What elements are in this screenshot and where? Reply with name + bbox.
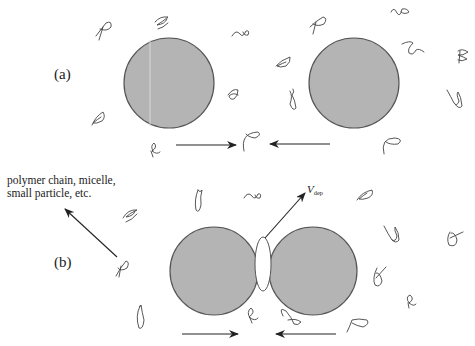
annotation-line-2: small particle, etc. — [7, 187, 116, 200]
colloid-particle-a-right — [309, 38, 399, 128]
polymer-chain-icon — [310, 17, 326, 34]
annotation-text: polymer chain, micelle, small particle, … — [7, 174, 116, 200]
polymer-chain-icon — [402, 42, 424, 54]
polymer-chain-icon — [248, 308, 258, 323]
polymer-chain-icon — [391, 9, 409, 15]
polymer-chain-icon — [155, 17, 168, 29]
velocity-symbol: V — [307, 183, 314, 195]
polymer-chain-icon — [96, 22, 111, 40]
polymer-chain-icon — [374, 267, 386, 286]
colloid-particle-b-left — [170, 227, 258, 315]
polymer-chain-icon — [407, 295, 416, 308]
panel-label-b: (b) — [54, 254, 72, 271]
polymer-chain-icon — [347, 319, 368, 332]
polymer-chain-icon — [116, 261, 128, 277]
depletion-zone-ellipse — [255, 237, 271, 291]
polymer-chain-icon — [137, 305, 144, 328]
velocity-label: Vdep — [307, 183, 323, 196]
polymer-chain-icon — [458, 50, 468, 63]
polymer-chain-icon — [244, 194, 261, 198]
polymer-chain-icon — [276, 57, 290, 67]
polymer-chain-icon — [123, 210, 137, 222]
polymer-chain-icon — [448, 232, 463, 246]
polymer-chain-icon — [447, 90, 462, 108]
polymer-chain-icon — [228, 90, 238, 100]
polymer-chain-icon — [151, 143, 160, 157]
panel-b-particles — [170, 227, 357, 315]
colloid-particle-a-left — [124, 38, 214, 128]
velocity-subscript: dep — [314, 189, 323, 196]
polymer-chain-icon — [243, 132, 259, 151]
polymer-chain-icon — [195, 190, 202, 211]
panel-a-particles — [124, 38, 399, 128]
polymer-chain-icon — [290, 89, 296, 109]
polymer-chain-icon — [384, 226, 399, 242]
polymer-chain-icon — [232, 31, 249, 36]
depletion-diagram — [0, 0, 475, 346]
polymer-chain-icon — [357, 190, 373, 200]
annotation-line-1: polymer chain, micelle, — [7, 174, 116, 187]
annotation-pointer-arrow — [65, 209, 117, 257]
colloid-particle-b-right — [269, 227, 357, 315]
polymer-chain-icon — [383, 138, 400, 154]
polymer-chain-icon — [92, 112, 104, 125]
panel-label-a: (a) — [54, 66, 71, 83]
